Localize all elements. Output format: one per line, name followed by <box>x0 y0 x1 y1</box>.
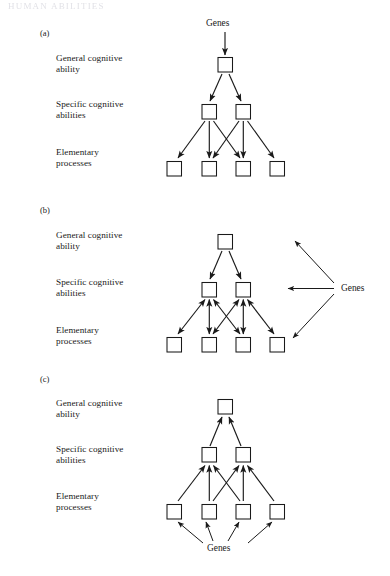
panel-c-node-elementary-4 <box>270 505 285 520</box>
panel-b-biarrow-s1-e3 <box>214 300 241 335</box>
panel-b-arrow-genes-to-general <box>295 241 334 283</box>
panel-tag-b: (b) <box>40 205 50 215</box>
panel-c-node-general <box>218 400 233 415</box>
panel-b-graph <box>167 235 334 353</box>
panel-c-arrow-e3-to-s1 <box>214 466 241 502</box>
panel-b-node-specific-1 <box>202 283 217 298</box>
panel-c-graph <box>167 400 285 544</box>
panel-a-arrow-general-to-specific-1 <box>210 74 222 101</box>
panel-b-node-elementary-1 <box>167 338 182 353</box>
panel-a-node-elementary-2 <box>202 162 217 177</box>
panel-c-label-specific: Specific cognitive abilities <box>56 444 124 467</box>
panel-b-arrow-general-to-specific-2 <box>229 251 241 279</box>
panel-a-node-specific-1 <box>202 105 217 120</box>
panel-c-arrow-genes-to-e4 <box>248 522 272 543</box>
panel-tag-c: (c) <box>40 374 49 384</box>
panel-a-arrow-s1-to-e3 <box>214 121 241 158</box>
panel-c-arrow-genes-to-e2 <box>206 522 213 541</box>
panel-tag-a: (a) <box>40 28 49 38</box>
panel-b-node-general <box>218 235 233 250</box>
panel-c-arrow-specific2-to-general <box>229 417 241 446</box>
panel-c-label-general: General cognitive ability <box>56 398 122 421</box>
panel-a-label-elementary: Elementary processes <box>56 147 99 170</box>
panel-a-genes-label: Genes <box>206 18 229 28</box>
panel-a-graph <box>167 32 285 176</box>
panel-a-node-elementary-1 <box>167 162 182 177</box>
panel-c-arrow-specific1-to-general <box>210 417 222 446</box>
panel-b-label-elementary: Elementary processes <box>56 325 99 348</box>
panel-b-biarrow-s2-e4 <box>248 300 275 335</box>
panel-c-node-specific-2 <box>236 448 251 463</box>
panel-c-arrow-genes-to-e3 <box>228 522 239 541</box>
panel-c-arrow-e2-to-s2 <box>213 466 239 502</box>
panel-b-arrow-general-to-specific-1 <box>210 251 222 279</box>
panel-a-node-elementary-3 <box>236 162 251 177</box>
panel-c-node-elementary-2 <box>202 505 217 520</box>
panel-a-arrow-s2-to-e4 <box>248 121 275 158</box>
panel-b-node-elementary-4 <box>270 338 285 353</box>
panel-a-label-specific: Specific cognitive abilities <box>56 99 124 122</box>
page-running-header: HUMAN ABILITIES <box>8 1 228 11</box>
panel-a-node-specific-2 <box>236 105 251 120</box>
panel-b-label-general: General cognitive ability <box>56 230 122 253</box>
panel-c-label-elementary: Elementary processes <box>56 491 99 514</box>
panel-c-node-specific-1 <box>202 448 217 463</box>
panel-c-node-elementary-1 <box>167 505 182 520</box>
panel-c-node-elementary-3 <box>236 505 251 520</box>
panel-c-arrow-genes-to-e1 <box>178 522 203 543</box>
panel-c-arrow-e1-to-s1 <box>178 466 205 502</box>
panel-b-node-elementary-3 <box>236 338 251 353</box>
diagram-page: HUMAN ABILITIES (a) General cognitive ab… <box>0 0 390 576</box>
panel-b-genes-label: Genes <box>341 283 364 293</box>
panel-b-biarrow-s2-e2 <box>213 300 239 335</box>
panel-a-node-general <box>218 58 233 73</box>
panel-a-node-elementary-4 <box>270 162 285 177</box>
panel-c-genes-label: Genes <box>207 543 230 553</box>
panel-a-arrow-s1-to-e1 <box>178 121 205 158</box>
panel-b-node-specific-2 <box>236 283 251 298</box>
panel-b-biarrow-s1-e1 <box>178 300 205 335</box>
panel-a-arrow-general-to-specific-2 <box>229 74 241 101</box>
panel-c-arrow-e4-to-s2 <box>248 466 275 502</box>
panel-a-label-general: General cognitive ability <box>56 53 122 76</box>
panel-b-node-elementary-2 <box>202 338 217 353</box>
panel-b-arrow-genes-to-elementary <box>293 294 334 338</box>
panel-a-arrow-s2-to-e2 <box>213 121 239 158</box>
panel-b-label-specific: Specific cognitive abilities <box>56 277 124 300</box>
